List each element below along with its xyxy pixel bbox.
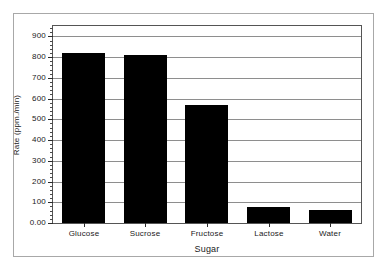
x-axis-tick-mark — [207, 223, 208, 227]
y-axis-minor-tick — [50, 82, 53, 83]
y-axis-tick-mark — [48, 140, 53, 141]
y-axis-minor-tick — [50, 186, 53, 187]
x-axis-tick-mark — [330, 223, 331, 227]
y-axis-tick-label: 700 — [32, 74, 46, 82]
y-axis-tick-mark — [48, 223, 53, 224]
y-axis-minor-tick — [50, 144, 53, 145]
y-axis-minor-tick — [50, 45, 53, 46]
y-axis-minor-tick — [50, 74, 53, 75]
y-axis-tick-mark — [48, 202, 53, 203]
x-axis-tick-mark — [269, 223, 270, 227]
y-axis-minor-tick — [50, 165, 53, 166]
x-axis-tick-mark — [84, 223, 85, 227]
x-axis-tick-label: Fructose — [191, 230, 224, 238]
y-axis-tick-label: 800 — [32, 53, 46, 61]
y-axis-minor-tick — [50, 107, 53, 108]
y-axis-tick-label: 900 — [32, 32, 46, 40]
y-axis-minor-tick — [50, 215, 53, 216]
y-axis-minor-tick — [50, 111, 53, 112]
y-axis-minor-tick — [50, 136, 53, 137]
y-axis-minor-tick — [50, 152, 53, 153]
y-axis-minor-tick — [50, 177, 53, 178]
y-axis-tick-mark — [48, 99, 53, 100]
bar — [62, 53, 105, 223]
y-axis-minor-tick — [50, 194, 53, 195]
y-axis-minor-tick — [50, 61, 53, 62]
y-axis-minor-tick — [50, 32, 53, 33]
y-axis-minor-tick — [50, 103, 53, 104]
y-axis-minor-tick — [50, 115, 53, 116]
y-axis-minor-tick — [50, 49, 53, 50]
y-axis-tick-mark — [48, 161, 53, 162]
y-axis-tick-label: 400 — [32, 136, 46, 144]
x-axis-tick-label: Glucose — [69, 230, 100, 238]
y-axis-tick-mark — [48, 36, 53, 37]
y-axis-minor-tick — [50, 123, 53, 124]
chart-figure: Rate (ppm./min) Sugar 0.0010020030040050… — [0, 0, 388, 272]
y-axis-tick-label: 600 — [32, 95, 46, 103]
y-axis-title: Rate (ppm./min) — [12, 95, 21, 155]
y-axis-tick-label: 200 — [32, 178, 46, 186]
y-axis-tick-label: 300 — [32, 157, 46, 165]
y-axis-tick-mark — [48, 182, 53, 183]
y-axis-minor-tick — [50, 157, 53, 158]
y-axis-minor-tick — [50, 28, 53, 29]
y-axis-tick-mark — [48, 57, 53, 58]
x-axis-tick-label: Water — [319, 230, 341, 238]
y-axis-minor-tick — [50, 132, 53, 133]
y-axis-minor-tick — [50, 65, 53, 66]
bar — [247, 207, 290, 223]
y-axis-tick-label: 100 — [32, 198, 46, 206]
bar — [185, 105, 228, 223]
y-axis-tick-label: 500 — [32, 115, 46, 123]
bar — [309, 210, 352, 223]
y-axis-minor-tick — [50, 86, 53, 87]
y-axis-minor-tick — [50, 53, 53, 54]
bar — [124, 55, 167, 223]
gridline — [53, 36, 361, 37]
y-axis-minor-tick — [50, 90, 53, 91]
y-axis-minor-tick — [50, 41, 53, 42]
y-axis-minor-tick — [50, 148, 53, 149]
y-axis-minor-tick — [50, 198, 53, 199]
y-axis-tick-mark — [48, 119, 53, 120]
y-axis-tick-label: 0.00 — [30, 219, 46, 227]
y-axis-minor-tick — [50, 94, 53, 95]
plot-area: 0.00100200300400500600700800900 GlucoseS… — [52, 25, 362, 224]
x-axis-title: Sugar — [194, 244, 219, 254]
x-axis-tick-mark — [145, 223, 146, 227]
x-axis-tick-label: Sucrose — [130, 230, 161, 238]
x-axis-tick-label: Lactose — [254, 230, 283, 238]
y-axis-minor-tick — [50, 190, 53, 191]
y-axis-tick-mark — [48, 78, 53, 79]
y-axis-minor-tick — [50, 206, 53, 207]
y-axis-minor-tick — [50, 128, 53, 129]
y-axis-minor-tick — [50, 211, 53, 212]
y-axis-minor-tick — [50, 219, 53, 220]
y-axis-minor-tick — [50, 173, 53, 174]
y-axis-minor-tick — [50, 169, 53, 170]
y-axis-minor-tick — [50, 70, 53, 71]
